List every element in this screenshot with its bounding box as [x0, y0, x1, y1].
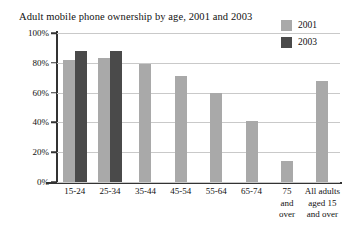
y-axis-tick-label: 60% — [33, 88, 50, 98]
bar-group — [57, 33, 92, 182]
x-axis-tick-label: 65-74 — [234, 186, 269, 198]
y-axis-tick-label: 40% — [33, 117, 50, 127]
x-axis-tick-label: 15-24 — [57, 186, 92, 198]
gridline — [57, 182, 340, 183]
bar — [139, 64, 151, 182]
bar — [98, 58, 110, 182]
x-axis-tick-label: 55-64 — [199, 186, 234, 198]
x-axis-tick-label: 35-44 — [128, 186, 163, 198]
bar-group — [128, 33, 163, 182]
bar-group — [199, 33, 234, 182]
legend-swatch-2001 — [281, 20, 292, 31]
bar-group — [305, 33, 340, 182]
x-axis-tick-label: 25-34 — [92, 186, 127, 198]
bar — [210, 93, 222, 182]
legend-item-2001: 2001 — [281, 20, 317, 31]
plot-area — [57, 33, 340, 182]
y-axis-tick-label: 80% — [33, 58, 50, 68]
bar — [281, 161, 293, 182]
bar — [110, 51, 122, 182]
bar-group — [269, 33, 304, 182]
x-axis-labels: 15-2425-3435-4445-5455-6465-7475 and ove… — [57, 186, 340, 234]
bar-group — [92, 33, 127, 182]
y-axis-tick-mark — [51, 92, 56, 94]
x-axis-tick-label: 75 and over — [269, 186, 304, 221]
y-axis-tick-mark — [51, 32, 56, 34]
x-axis-tick-label: 45-54 — [163, 186, 198, 198]
y-axis-tick-label: 20% — [33, 147, 50, 157]
y-axis-tick-mark — [51, 151, 56, 153]
y-axis-labels: 100%80%60%40%20%0% — [0, 0, 49, 234]
chart-title: Adult mobile phone ownership by age, 200… — [19, 11, 252, 22]
bar — [63, 60, 75, 182]
chart-container: Adult mobile phone ownership by age, 200… — [0, 0, 350, 234]
bar — [246, 121, 258, 182]
bar — [175, 76, 187, 182]
bar — [75, 51, 87, 182]
bar-group — [163, 33, 198, 182]
bar-group — [234, 33, 269, 182]
legend-label-2001: 2001 — [298, 20, 317, 31]
y-axis-tick-label: 100% — [28, 28, 49, 38]
y-axis-tick-mark — [51, 62, 56, 64]
bar — [316, 81, 328, 182]
x-axis-tick-label: All adults aged 15 and over — [305, 186, 340, 221]
y-axis-tick-mark — [51, 122, 56, 124]
y-axis-tick-mark — [51, 181, 56, 183]
